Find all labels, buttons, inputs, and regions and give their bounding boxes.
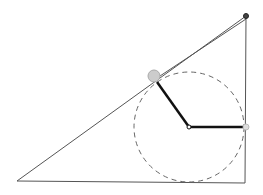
geometry-diagram [0,0,263,195]
side-tangent-handle[interactable] [243,124,249,130]
hypotenuse-offset-line [160,19,246,76]
circle-center-point[interactable] [187,125,191,129]
right-triangle [17,16,246,183]
hypotenuse-tangent-handle[interactable] [148,70,160,82]
radius-to-hypotenuse [157,82,189,127]
top-vertex-point[interactable] [244,14,249,19]
